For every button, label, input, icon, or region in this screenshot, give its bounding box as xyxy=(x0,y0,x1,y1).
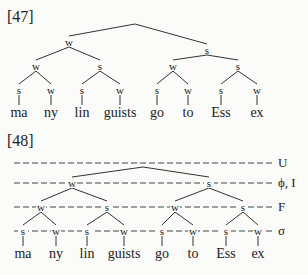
strong-node: s xyxy=(224,225,228,237)
tier-label: U xyxy=(278,155,288,170)
tree-branch xyxy=(207,55,238,60)
tree-edges xyxy=(23,167,258,225)
tree-branch xyxy=(100,71,120,84)
syllable: ex xyxy=(251,246,264,261)
strong-node: s xyxy=(205,44,209,56)
syllable: to xyxy=(188,246,199,261)
tree-branch xyxy=(175,188,209,201)
tree-branch xyxy=(23,212,41,225)
tree-branch xyxy=(72,188,107,201)
syllable: guists xyxy=(104,105,137,120)
tree-branch xyxy=(173,71,188,84)
weak-node: w xyxy=(116,84,124,96)
example-number: [47] xyxy=(7,8,34,25)
tree-branch xyxy=(157,71,173,84)
syllable: go xyxy=(150,105,164,120)
example-number: [48] xyxy=(7,132,34,149)
tree-branch xyxy=(41,188,72,201)
tree-branch xyxy=(72,167,143,177)
syllable-row: manylinguistsgotoEssex xyxy=(14,236,264,261)
weak-node: w xyxy=(68,177,76,189)
tree-branch xyxy=(19,71,36,84)
tree-branch xyxy=(36,47,69,60)
tree-branch xyxy=(87,212,107,225)
syllable: ex xyxy=(250,105,263,120)
strong-node: s xyxy=(85,225,89,237)
tree-branch xyxy=(36,71,51,84)
tree-edges xyxy=(19,24,257,84)
tree-branch xyxy=(107,212,124,225)
syllable: lin xyxy=(80,246,95,261)
strong-node: s xyxy=(80,84,84,96)
strong-node: s xyxy=(241,201,245,213)
tier-label: ϕ, I xyxy=(278,175,296,190)
strong-node: s xyxy=(105,201,109,213)
diagram-canvas: [47] wswswsswswswsw manylinguistsgotoEss… xyxy=(0,0,308,275)
weak-node: w xyxy=(32,60,40,72)
strong-node: s xyxy=(17,84,21,96)
weak-node: w xyxy=(254,225,262,237)
tree-branch xyxy=(82,71,100,84)
strong-node: s xyxy=(160,225,164,237)
tree-branch xyxy=(243,212,258,225)
weak-node: w xyxy=(171,201,179,213)
tier-labels: Uϕ, IFσ xyxy=(278,155,296,238)
tree-branch xyxy=(69,47,100,60)
weak-node: w xyxy=(189,225,197,237)
tree-branch xyxy=(162,212,175,225)
syllable: lin xyxy=(75,105,90,120)
tree-branch xyxy=(221,71,238,84)
syllable: Ess xyxy=(211,105,230,120)
syllable: ma xyxy=(14,246,32,261)
prosodic-trees-figure: [47] wswswsswswswsw manylinguistsgotoEss… xyxy=(0,0,308,275)
strong-node: s xyxy=(236,60,240,72)
weak-node: w xyxy=(184,84,192,96)
syllable-row: manylinguistsgotoEssex xyxy=(10,95,263,120)
weak-node: w xyxy=(37,201,45,213)
syllable: go xyxy=(155,246,169,261)
weak-node: w xyxy=(52,225,60,237)
syllable: Ess xyxy=(216,246,235,261)
example-47-metrical-tree: [47] wswswsswswswsw manylinguistsgotoEss… xyxy=(7,8,264,120)
example-48-prosodic-hierarchy-tree: [48] wswswsswswswsw manylinguistsgotoEss… xyxy=(7,132,296,261)
syllable: to xyxy=(183,105,194,120)
tree-branch xyxy=(41,212,56,225)
tree-branch xyxy=(135,24,207,44)
weak-node: w xyxy=(47,84,55,96)
syllable: ny xyxy=(49,246,63,261)
tier-label: F xyxy=(278,199,285,214)
strong-node: s xyxy=(219,84,223,96)
weak-node: w xyxy=(120,225,128,237)
strong-node: s xyxy=(207,177,211,189)
syllable: ny xyxy=(44,105,58,120)
tree-nodes: wswswsswswswsw xyxy=(17,36,261,96)
strong-node: s xyxy=(155,84,159,96)
weak-node: w xyxy=(65,36,73,48)
tree-branch xyxy=(175,212,193,225)
tree-branch xyxy=(173,55,207,60)
weak-node: w xyxy=(169,60,177,72)
strong-node: s xyxy=(98,60,102,72)
syllable: guists xyxy=(108,246,141,261)
tree-branch xyxy=(238,71,257,84)
tree-branch xyxy=(69,24,135,36)
tier-lines xyxy=(14,163,274,231)
tree-branch xyxy=(209,188,243,201)
tree-branch xyxy=(143,167,209,177)
syllable: ma xyxy=(10,105,28,120)
strong-node: s xyxy=(21,225,25,237)
tier-label: σ xyxy=(278,223,285,238)
weak-node: w xyxy=(253,84,261,96)
tree-branch xyxy=(226,212,243,225)
